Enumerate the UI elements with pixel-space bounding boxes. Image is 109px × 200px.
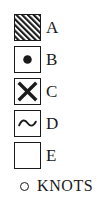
wave-tilde-square-icon [14,110,41,137]
dot-square-icon [14,46,41,73]
cross-x-square-icon [14,78,41,105]
units-label: KNOTS [37,178,93,194]
legend-row: C [14,78,58,105]
map-legend: A B C D E [0,0,109,200]
legend-row: A [14,14,58,41]
open-circle-icon [20,182,29,191]
units-row: KNOTS [20,176,93,196]
legend-row-label: C [46,83,58,100]
legend-row-label: D [46,115,58,132]
empty-square-icon [14,142,41,169]
legend-row: D [14,110,58,137]
legend-row-label: E [46,147,57,164]
legend-row: B [14,46,58,73]
legend-row: E [14,142,57,169]
legend-row-label: A [46,19,58,36]
legend-row-label: B [46,51,58,68]
diagonal-hatch-square-icon [14,14,41,41]
